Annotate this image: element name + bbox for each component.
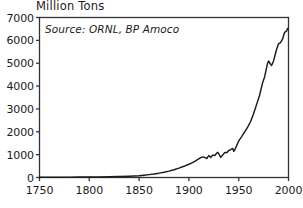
y-tick-label: 0 [0,171,34,184]
x-tick-label: 1750 [20,184,60,197]
data-series-group [40,28,288,177]
x-tick-label: 1850 [119,184,159,197]
x-tick-label: 1900 [169,184,209,197]
axis-frame [40,18,289,178]
plot-area [0,0,302,208]
y-tick-label: 4000 [0,80,34,93]
y-tick-label: 1000 [0,148,34,161]
y-tick-label: 2000 [0,125,34,138]
y-tick-label: 6000 [0,34,34,47]
y-tick-label: 5000 [0,57,34,70]
y-tick-label: 3000 [0,102,34,115]
x-tick-label: 1800 [69,184,109,197]
x-tick-label: 2000 [269,184,303,197]
y-tick-label: 7000 [0,11,34,24]
chart-figure: Million Tons Source: ORNL, BP Amoco 0100… [0,0,302,208]
x-tick-label: 1950 [219,184,259,197]
